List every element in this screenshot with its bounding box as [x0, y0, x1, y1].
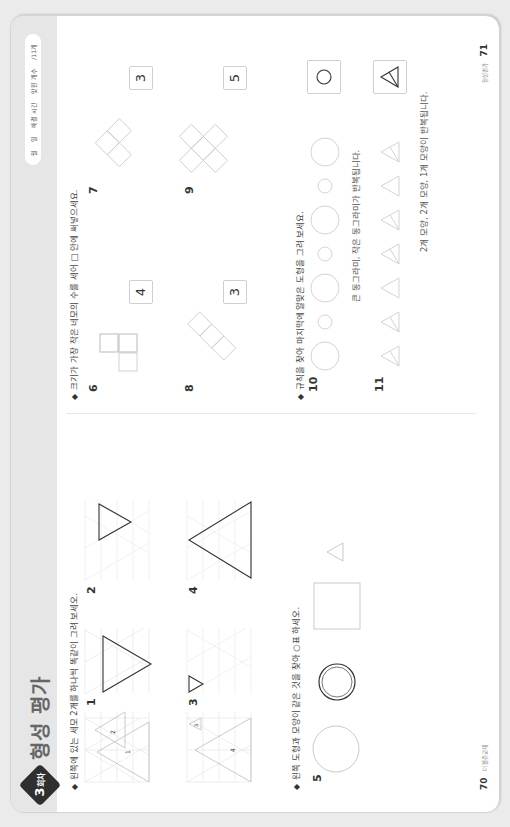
solve-time-field[interactable]: 해결 시간: [29, 102, 38, 128]
reference-circle: [311, 724, 361, 774]
question-number: 2: [85, 586, 98, 594]
question-number: 9: [183, 186, 196, 194]
right-footer: 형성평가71: [479, 38, 489, 83]
option-circle-selected[interactable]: [317, 662, 357, 702]
page-title: 형성 평가: [25, 676, 54, 760]
square-figure-q6: [99, 312, 141, 372]
svg-text:1: 1: [124, 750, 131, 754]
answer-box-q11[interactable]: [373, 60, 407, 94]
answer-box-q6[interactable]: 4: [129, 280, 153, 304]
instruction-section4: ◆규칙을 찾아 마지막에 알맞은 도형을 그려 보세요.: [293, 211, 305, 400]
drawing-grid-q4[interactable]: [187, 500, 253, 580]
pattern-sequence-q11: [379, 118, 403, 368]
reference-triangles-q3: 4 3: [187, 712, 253, 782]
score-record: 월 일 해결 시간 맞힌 개수 /11개: [25, 34, 41, 166]
session-badge-label: 3회차: [28, 770, 52, 800]
rotated-stage: 3회차 형성 평가 월 일 해결 시간 맞힌 개수 /11개 ◆왼쪽에 있는 세…: [0, 0, 510, 827]
option-square[interactable]: [313, 580, 363, 630]
left-footer: 70더 볼쥬교재: [479, 745, 489, 790]
drawing-grid-q3[interactable]: [187, 628, 251, 694]
instruction-section1: ◆왼쪽에 있는 세모 2개를 하나씩 똑같이 그려 보세오.: [67, 593, 79, 790]
question-number: 3: [187, 698, 200, 706]
answer-box-q8[interactable]: 3: [223, 280, 247, 304]
page-gutter: [66, 413, 476, 414]
question-number: 8: [183, 384, 196, 392]
square-figure-q9: [179, 112, 239, 172]
answer-box-q7[interactable]: 3: [129, 66, 153, 90]
drawing-grid-q2[interactable]: [85, 500, 149, 580]
answer-split-triangle: [374, 61, 406, 93]
option-triangle[interactable]: [325, 542, 345, 562]
day-field[interactable]: 일: [29, 136, 38, 142]
rule-hint-q10: 큰 동그라미, 작은 동그라미가 반복됩니다.: [349, 150, 361, 302]
score-field[interactable]: 맞힌 개수: [29, 68, 38, 94]
pattern-sequence-q10: [309, 112, 343, 372]
question-number: 4: [187, 586, 200, 594]
instruction-section3: ◆크기가 가장 작은 네모의 수를 세어 □ 안에 써넣으세요.: [67, 189, 79, 400]
question-number: 5: [311, 774, 324, 782]
answer-box-q9[interactable]: 5: [223, 66, 247, 90]
question-number: 6: [87, 384, 100, 392]
answer-small-circle: [308, 61, 340, 93]
question-number: 11: [373, 377, 386, 392]
drawing-grid-q1[interactable]: [85, 628, 149, 694]
instruction-section2: ◆왼쪽 도형과 모양이 같은 것을 찾아 ○표 하세오.: [289, 607, 301, 790]
question-number: 1: [85, 698, 98, 706]
square-figure-q8: [181, 306, 241, 366]
svg-text:4: 4: [229, 748, 236, 752]
reference-triangles-q1: 1 2: [85, 712, 151, 782]
square-figure-q7: [95, 112, 145, 172]
answer-box-q10[interactable]: [307, 60, 341, 94]
svg-text:2: 2: [109, 730, 116, 734]
worksheet-spread: 3회차 형성 평가 월 일 해결 시간 맞힌 개수 /11개 ◆왼쪽에 있는 세…: [10, 15, 500, 813]
question-number: 7: [87, 186, 100, 194]
svg-text:3: 3: [193, 724, 199, 727]
month-field[interactable]: 월: [29, 150, 38, 156]
score-total: /11개: [29, 44, 38, 60]
rule-hint-q11: 2개 모양, 2개 모양, 1개 모양이 반복됩니다.: [417, 91, 429, 252]
question-number: 10: [307, 377, 320, 392]
